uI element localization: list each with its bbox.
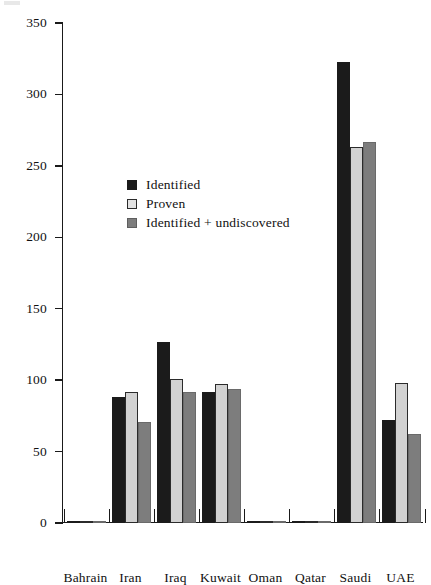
x-axis-tick <box>64 509 65 523</box>
y-axis-tick <box>55 94 63 95</box>
bar-bahrain-series1 <box>80 521 93 523</box>
x-axis-label-oman: Oman <box>249 571 283 585</box>
bar-iraq-series1 <box>170 379 183 523</box>
bar-iraq-series0 <box>157 342 170 523</box>
legend-swatch-identified-undiscovered <box>127 218 137 228</box>
x-axis-tick <box>154 509 155 523</box>
bar-kuwait-series2 <box>228 389 241 523</box>
x-axis-label-uae: UAE <box>386 571 414 585</box>
bar-oman-series2 <box>273 521 286 523</box>
bar-bahrain-series0 <box>67 521 80 523</box>
bar-iran-series2 <box>138 422 151 523</box>
bar-saudi-series2 <box>363 142 376 523</box>
y-axis-tick-label: 350 <box>0 16 47 30</box>
y-axis-tick <box>55 522 63 523</box>
legend-label-proven: Proven <box>146 197 185 211</box>
x-axis-label-iraq: Iraq <box>164 571 187 585</box>
bar-oman-series0 <box>247 521 260 523</box>
y-axis-tick-label: 300 <box>0 87 47 101</box>
y-axis-tick-label: 200 <box>0 230 47 244</box>
x-axis-tick <box>244 509 245 523</box>
y-axis-tick <box>55 308 63 309</box>
bar-iran-series0 <box>112 397 125 523</box>
bar-saudi-series0 <box>337 62 350 523</box>
bar-kuwait-series1 <box>215 384 228 523</box>
x-axis-tick <box>334 509 335 523</box>
bar-oman-series1 <box>260 521 273 523</box>
y-axis-tick <box>55 451 63 452</box>
y-axis-tick-label: 50 <box>0 445 47 459</box>
bar-iraq-series2 <box>183 392 196 523</box>
y-axis-tick <box>55 165 63 166</box>
x-axis-tick <box>109 509 110 523</box>
bar-kuwait-series0 <box>202 392 215 523</box>
bar-qatar-series2 <box>318 521 331 523</box>
y-axis-tick <box>55 237 63 238</box>
chart-legend: Identified Proven Identified + undiscove… <box>127 176 290 233</box>
legend-item-identified-undiscovered: Identified + undiscovered <box>127 214 290 231</box>
x-axis-label-iran: Iran <box>119 571 142 585</box>
y-axis-tick <box>55 22 63 23</box>
x-axis-label-saudi: Saudi <box>340 571 372 585</box>
bar-uae-series1 <box>395 383 408 523</box>
plot-area: 050100150200250300350BahrainIranIraqKuwa… <box>63 23 423 523</box>
y-axis-tick <box>55 379 63 380</box>
legend-item-proven: Proven <box>127 195 290 212</box>
bar-qatar-series1 <box>305 521 318 523</box>
bar-iran-series1 <box>125 392 138 523</box>
x-axis-tick <box>379 509 380 523</box>
legend-swatch-identified <box>127 180 137 190</box>
x-axis-label-qatar: Qatar <box>295 571 326 585</box>
bar-qatar-series0 <box>292 521 305 523</box>
y-axis-tick-label: 150 <box>0 302 47 316</box>
legend-swatch-proven <box>127 199 137 209</box>
x-axis-tick <box>425 509 426 523</box>
bar-saudi-series1 <box>350 147 363 523</box>
bar-bahrain-series2 <box>93 521 106 523</box>
x-axis-label-kuwait: Kuwait <box>200 571 241 585</box>
x-axis-tick <box>199 509 200 523</box>
bar-uae-series2 <box>408 434 421 523</box>
legend-label-identified-undiscovered: Identified + undiscovered <box>146 216 290 230</box>
y-axis-tick-label: 0 <box>0 516 47 530</box>
page-corner-artifact <box>4 1 20 5</box>
x-axis-tick <box>289 509 290 523</box>
x-axis-label-bahrain: Bahrain <box>63 571 107 585</box>
y-axis-tick-label: 250 <box>0 159 47 173</box>
y-axis-tick-label: 100 <box>0 373 47 387</box>
bar-uae-series0 <box>382 420 395 523</box>
legend-label-identified: Identified <box>146 178 200 192</box>
legend-item-identified: Identified <box>127 176 290 193</box>
